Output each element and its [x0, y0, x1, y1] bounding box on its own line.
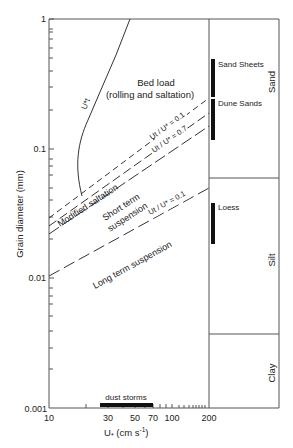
bed-load-label: Bed load: [137, 77, 175, 88]
x-tick-100: 100: [164, 413, 179, 423]
dust-storms-bar: [100, 403, 153, 407]
x-axis-title: U* (cm s-1): [104, 426, 148, 439]
bed-load-sublabel: (rolling and saltation): [106, 89, 194, 100]
x-tick-50: 50: [130, 413, 140, 423]
y-tick-0.01: 0.01: [28, 273, 46, 283]
sand-sheets-bar: [211, 59, 215, 97]
x-tick-10: 10: [44, 413, 54, 423]
y-axis-ticks: [49, 19, 54, 369]
loess-label: Loess: [218, 203, 239, 212]
x-tick-200: 200: [201, 413, 216, 423]
sand-class-label: Sand: [266, 71, 277, 93]
x-tick-70: 70: [148, 413, 158, 423]
y-tick-0.1: 0.1: [33, 144, 46, 154]
dust-storms-label: dust storms: [105, 393, 146, 402]
grain-transport-diagram: 1 0.1 0.01 0.001 10 30 50 70 100 200 Gra…: [0, 0, 293, 448]
clay-class-label: Clay: [266, 363, 277, 382]
dune-sands-label: Dune Sands: [218, 99, 262, 108]
long-term-suspension-label: Long term suspension: [91, 239, 173, 291]
y-tick-1: 1: [41, 14, 46, 24]
silt-class-label: Silt: [266, 253, 277, 267]
x-tick-30: 30: [103, 413, 113, 423]
threshold-curve-label: U*t: [80, 96, 93, 110]
dune-sands-bar: [211, 99, 215, 140]
sand-sheets-label: Sand Sheets: [218, 60, 264, 69]
loess-bar: [211, 203, 215, 244]
ratio-0.1-lower-label: Ut / U* = 0.1: [147, 189, 187, 217]
y-axis-title: Grain diameter (mm): [14, 170, 25, 258]
